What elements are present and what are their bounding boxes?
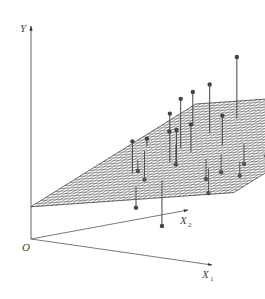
data-point xyxy=(220,113,224,117)
data-point xyxy=(130,139,134,143)
data-point xyxy=(174,128,178,132)
x2-axis-label-main: X xyxy=(179,214,188,226)
x2-axis-label-sub: 2 xyxy=(188,221,192,229)
data-point xyxy=(189,122,193,126)
x2-axis xyxy=(31,210,188,239)
data-point xyxy=(235,55,239,59)
x1-axis-label-main: X xyxy=(201,268,210,280)
x1-axis-label-sub: 1 xyxy=(210,275,214,283)
data-point xyxy=(145,137,149,141)
data-point xyxy=(207,82,211,86)
y-axis-label: Y xyxy=(20,22,28,34)
data-point xyxy=(191,90,195,94)
x1-axis-label: X 1 xyxy=(201,268,214,283)
data-point xyxy=(179,97,183,101)
x1-axis xyxy=(31,239,212,265)
data-point xyxy=(167,129,171,133)
data-point xyxy=(168,111,172,115)
origin-label: O xyxy=(22,241,30,253)
x2-axis-label: X 2 xyxy=(179,214,192,229)
regression-plane xyxy=(31,90,265,207)
data-point xyxy=(134,205,138,209)
regression-plane-figure: Y X 2 X 1 O xyxy=(0,0,265,299)
data-point xyxy=(160,224,164,228)
